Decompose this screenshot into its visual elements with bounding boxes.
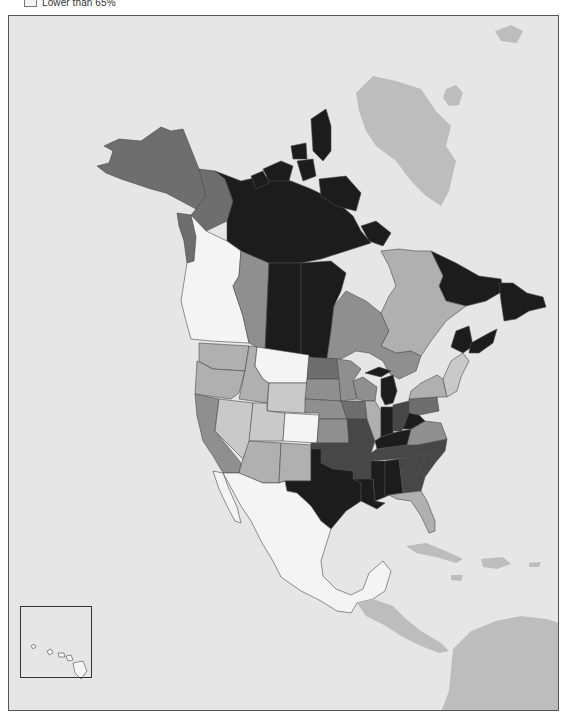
region-wyoming [267,383,307,413]
region-wisconsin [353,377,377,401]
region-puerto-rico [529,562,541,567]
region-north-dakota [307,357,339,379]
region-pennsylvania [409,397,439,415]
region-jamaica [451,575,463,581]
region-newfoundland [499,283,546,321]
region-nova-scotia [469,329,497,353]
region-new-england [443,353,469,397]
region-alaska [97,127,206,209]
region-nunavut-islands-1 [311,109,331,161]
legend-swatch [24,0,37,7]
region-kansas [317,419,349,443]
region-cuba [406,543,463,563]
region-indiana [381,407,393,437]
region-hispaniola [481,557,511,569]
region-south-america [441,616,559,711]
region-colorado [283,413,319,443]
region-new-york [409,375,447,399]
region-florida [389,491,435,533]
map-frame [8,15,559,711]
region-central-america [357,599,449,653]
region-svalbard [495,25,523,43]
region-new-mexico [279,443,311,483]
region-nunavut-islands-6 [291,143,307,159]
hawaii-inset-frame [20,606,92,678]
region-iceland [443,85,463,106]
region-michigan [381,375,397,405]
region-nunavut-islands-2 [263,161,293,181]
region-saskatchewan [265,263,301,357]
region-south-dakota [305,379,341,401]
region-arkansas [351,453,371,479]
region-nunavut-islands-3 [297,159,316,181]
region-greenland [356,76,456,206]
legend-label: Lower than 65% [42,0,116,8]
legend-entry-lower-than-65: Lower than 65% [24,0,116,9]
